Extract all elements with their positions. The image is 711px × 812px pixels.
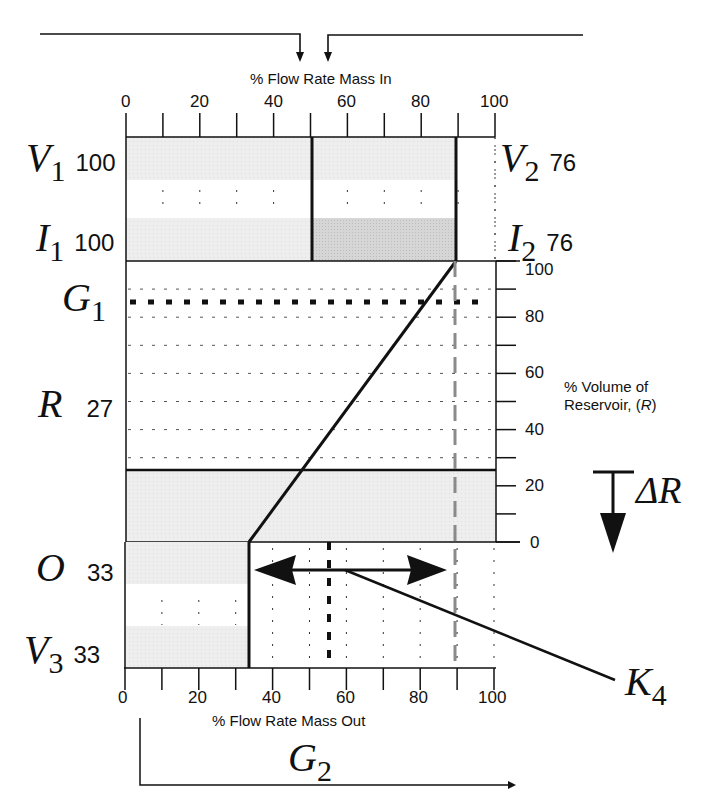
v1-band xyxy=(126,137,312,180)
i2-label: I2 76 xyxy=(508,218,573,263)
top-tick-0: 0 xyxy=(121,92,130,112)
right-tick-60: 60 xyxy=(525,363,544,383)
i2-band xyxy=(312,218,456,261)
v2-value: 76 xyxy=(549,149,576,176)
top-tick-60: 60 xyxy=(337,92,356,112)
v3-value: 33 xyxy=(73,641,100,668)
i1-value: 100 xyxy=(74,229,114,256)
right-tick-100: 100 xyxy=(525,260,553,280)
double-arrow xyxy=(254,555,447,585)
o-label: O 33 xyxy=(36,548,114,593)
right-tick-0: 0 xyxy=(530,533,539,553)
delta-r-label: ΔR xyxy=(636,468,682,512)
top-tick-100: 100 xyxy=(480,92,508,112)
inflow-arrows xyxy=(40,34,583,58)
i1-label: I1 100 xyxy=(36,218,114,263)
o-value: 33 xyxy=(87,559,114,586)
right-tick-40: 40 xyxy=(525,420,544,440)
reservoir-gridlines xyxy=(128,289,494,458)
v3-band xyxy=(126,626,249,668)
v2-label: V2 76 xyxy=(500,138,576,183)
g2-label: G2 xyxy=(288,738,332,781)
i1-band xyxy=(126,218,312,261)
k4-label: K4 xyxy=(625,662,667,705)
g1-label: G1 xyxy=(62,278,106,321)
reservoir-filled xyxy=(126,470,496,542)
right-axis-title: % Volume of Reservoir, (R) xyxy=(564,378,657,414)
right-tick-20: 20 xyxy=(525,476,544,496)
r-label: R 27 xyxy=(38,384,113,429)
top-tick-80: 80 xyxy=(411,92,430,112)
bottom-tick-100: 100 xyxy=(478,688,506,708)
v1-label: V1 100 xyxy=(26,138,115,183)
bottom-tick-60: 60 xyxy=(336,688,355,708)
v3-label: V3 33 xyxy=(24,630,100,675)
delta-r-arrow-icon xyxy=(593,472,634,553)
r-value: 27 xyxy=(86,395,113,422)
v2-band xyxy=(312,137,456,180)
inflow-arrowheads xyxy=(296,52,332,62)
bottom-tick-40: 40 xyxy=(262,688,281,708)
right-tick-80: 80 xyxy=(525,307,544,327)
top-axis-ticks xyxy=(126,113,495,137)
i2-value: 76 xyxy=(546,229,573,256)
top-tick-20: 20 xyxy=(190,92,209,112)
bottom-tick-20: 20 xyxy=(188,688,207,708)
top-tick-40: 40 xyxy=(264,92,283,112)
k4-leader-line xyxy=(345,570,615,680)
bottom-axis-ticks xyxy=(125,668,494,690)
right-axis-ticks xyxy=(496,261,520,542)
bottom-tick-80: 80 xyxy=(409,688,428,708)
top-axis-title: % Flow Rate Mass In xyxy=(250,70,392,87)
bottom-tick-0: 0 xyxy=(118,688,127,708)
o-band xyxy=(126,542,249,584)
v1-value: 100 xyxy=(75,149,115,176)
bottom-axis-title: % Flow Rate Mass Out xyxy=(212,712,365,729)
